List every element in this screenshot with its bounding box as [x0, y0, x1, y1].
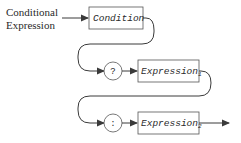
node-question: ? — [104, 62, 122, 80]
question-label: ? — [110, 67, 115, 77]
diagram-title-line2: Expression — [6, 19, 55, 31]
diagram-title-line1: Conditional — [6, 6, 58, 18]
node-expression1: Expression1 — [138, 60, 202, 82]
node-colon: : — [104, 114, 122, 132]
syntax-diagram: Conditional Expression Condition ? Expre… — [0, 0, 241, 143]
condition-label: Condition — [93, 13, 145, 24]
colon-label: : — [110, 119, 115, 129]
node-expression2: Expression2 — [138, 112, 202, 134]
expression2-label: Expression2 — [141, 118, 202, 130]
node-condition: Condition — [89, 7, 145, 29]
expression1-label: Expression1 — [141, 66, 202, 78]
